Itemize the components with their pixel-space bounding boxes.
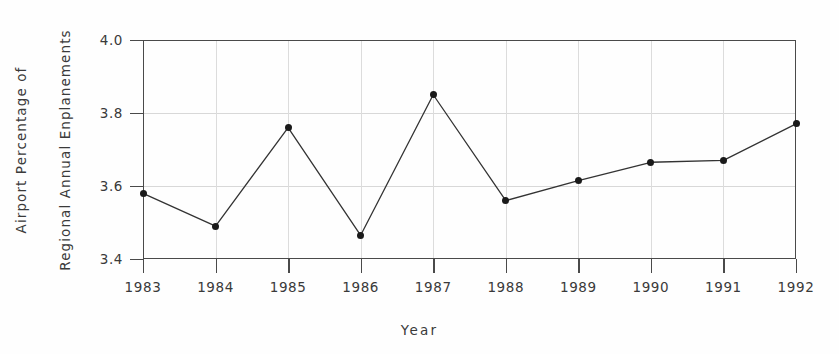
x-tick-mark — [578, 259, 579, 273]
y-tick-mark — [130, 113, 143, 114]
x-tick-mark — [651, 259, 652, 273]
data-point — [793, 120, 800, 127]
y-tick-mark — [130, 186, 143, 187]
x-tick-mark — [288, 259, 289, 273]
x-tick-mark — [796, 259, 797, 273]
y-tick-label: 4.0 — [100, 32, 123, 48]
x-tick-label: 1990 — [632, 279, 669, 295]
x-tick-label: 1985 — [270, 279, 307, 295]
y-axis-title-line-1: Airport Percentage of — [13, 67, 29, 234]
data-point — [357, 232, 364, 239]
x-tick-mark — [143, 259, 144, 273]
x-tick-mark — [216, 259, 217, 273]
x-tick-label: 1983 — [125, 279, 162, 295]
x-tick-mark — [361, 259, 362, 273]
x-tick-mark — [723, 259, 724, 273]
x-tick-mark — [433, 259, 434, 273]
x-tick-label: 1991 — [705, 279, 742, 295]
chart-figure: Airport Percentage of Regional Annual En… — [0, 0, 839, 354]
x-tick-label: 1984 — [197, 279, 234, 295]
data-line — [143, 40, 796, 259]
y-tick-label: 3.8 — [100, 105, 123, 121]
y-axis-title: Airport Percentage of Regional Annual En… — [0, 0, 86, 300]
y-tick-mark — [130, 259, 143, 260]
x-tick-label: 1986 — [342, 279, 379, 295]
plot-area: 3.43.63.84.0 198319841985198619871988198… — [143, 40, 796, 259]
data-point — [140, 190, 147, 197]
y-tick-label: 3.6 — [100, 178, 123, 194]
x-tick-label: 1992 — [778, 279, 815, 295]
data-point — [575, 177, 582, 184]
y-tick-label: 3.4 — [100, 251, 123, 267]
y-tick-mark — [130, 40, 143, 41]
data-point — [212, 223, 219, 230]
x-tick-label: 1987 — [415, 279, 452, 295]
y-axis-title-line-2: Regional Annual Enplanements — [57, 29, 73, 270]
x-tick-label: 1989 — [560, 279, 597, 295]
data-point — [720, 157, 727, 164]
data-point — [285, 124, 292, 131]
x-tick-mark — [506, 259, 507, 273]
x-axis-title: Year — [0, 322, 839, 338]
x-tick-label: 1988 — [487, 279, 524, 295]
data-point — [430, 91, 437, 98]
